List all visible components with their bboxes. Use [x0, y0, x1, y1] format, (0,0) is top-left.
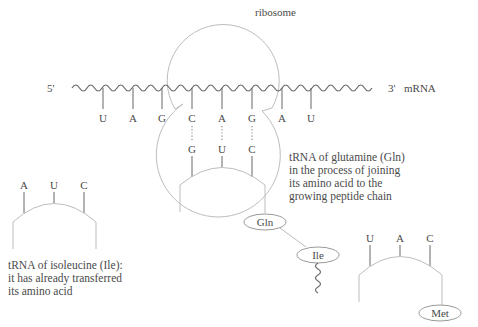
codon-base: G	[158, 112, 166, 124]
codon-base: A	[278, 112, 286, 124]
anticodon-base: U	[218, 143, 226, 155]
ile-label: Ile	[312, 249, 324, 261]
codon-base: U	[307, 112, 315, 124]
trna-gln-caption: tRNA of glutamine (Gln) in the process o…	[289, 151, 405, 203]
anticodon-base: A	[396, 232, 404, 244]
codon-base: A	[218, 112, 226, 124]
anticodon-base: A	[20, 179, 28, 191]
anticodon-base: U	[50, 179, 58, 191]
ribosome-label: ribosome	[255, 6, 296, 18]
svg-text:growing peptide chain: growing peptide chain	[289, 190, 392, 203]
met-label: Met	[431, 307, 449, 319]
trna-met: U A C Met	[359, 232, 461, 321]
anticodon-base: C	[248, 143, 255, 155]
translation-diagram: ribosome 5' 3' mRNA U A G C A G A U G U …	[0, 0, 478, 327]
anticodon-base: G	[188, 143, 196, 155]
gln-label: Gln	[257, 216, 274, 228]
svg-text:tRNA of glutamine (Gln): tRNA of glutamine (Gln)	[289, 151, 405, 164]
three-prime-label: 3'	[388, 82, 396, 94]
codon-base: G	[248, 112, 256, 124]
peptide-chain: Gln Ile	[244, 214, 339, 293]
base-pair-bonds	[192, 126, 252, 140]
trna-ile-caption: tRNA of isoleucine (Ile): it has already…	[8, 259, 123, 297]
trna-ile: A U C	[13, 179, 96, 249]
anticodon-base: C	[426, 232, 433, 244]
svg-text:tRNA of isoleucine (Ile):: tRNA of isoleucine (Ile):	[8, 259, 123, 272]
anticodon-base: C	[80, 179, 87, 191]
five-prime-label: 5'	[47, 82, 55, 94]
svg-text:in the process of joining: in the process of joining	[289, 164, 400, 177]
svg-text:its amino acid: its amino acid	[8, 285, 73, 297]
codon-base: U	[99, 112, 107, 124]
mrna-codon-letters: U A G C A G A U	[99, 112, 315, 124]
codon-base: A	[129, 112, 137, 124]
codon-base: C	[188, 112, 195, 124]
mrna-label: mRNA	[404, 82, 436, 94]
svg-text:its amino acid to the: its amino acid to the	[289, 177, 382, 189]
anticodon-base: U	[366, 232, 374, 244]
trna-gln: G U C	[180, 143, 265, 213]
svg-text:it has already transferred: it has already transferred	[8, 272, 122, 285]
peptide-tail	[316, 263, 321, 293]
